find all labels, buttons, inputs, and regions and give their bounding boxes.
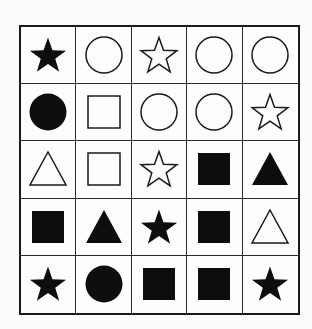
filled-star-icon bbox=[250, 264, 290, 304]
grid-cell-r2-c2 bbox=[76, 84, 131, 141]
grid-cell-r5-c2 bbox=[76, 256, 131, 313]
outline-triangle-icon bbox=[250, 207, 290, 247]
grid-cell-r1-c1 bbox=[21, 27, 76, 84]
outline-circle-icon bbox=[250, 35, 290, 75]
grid-cell-r2-c3 bbox=[132, 84, 187, 141]
grid-cell-r5-c5 bbox=[243, 256, 298, 313]
grid-cell-r5-c1 bbox=[21, 256, 76, 313]
grid-cell-r4-c3 bbox=[132, 199, 187, 256]
grid-cell-r3-c4 bbox=[187, 141, 242, 198]
filled-circle-icon bbox=[84, 264, 124, 304]
grid-cell-r4-c4 bbox=[187, 199, 242, 256]
grid-cell-r3-c1 bbox=[21, 141, 76, 198]
outline-circle-icon bbox=[194, 35, 234, 75]
filled-square-icon bbox=[194, 264, 234, 304]
grid-cell-r5-c3 bbox=[132, 256, 187, 313]
shape-grid bbox=[19, 25, 300, 315]
grid-cell-r3-c3 bbox=[132, 141, 187, 198]
outline-star-icon bbox=[139, 35, 179, 75]
grid-cell-r1-c2 bbox=[76, 27, 131, 84]
outline-square-icon bbox=[84, 92, 124, 132]
filled-square-icon bbox=[194, 149, 234, 189]
filled-square-icon bbox=[28, 207, 68, 247]
filled-triangle-icon bbox=[250, 149, 290, 189]
grid-cell-r2-c4 bbox=[187, 84, 242, 141]
grid-cell-r3-c2 bbox=[76, 141, 131, 198]
filled-square-icon bbox=[139, 264, 179, 304]
outline-star-icon bbox=[139, 149, 179, 189]
filled-circle-icon bbox=[28, 92, 68, 132]
filled-star-icon bbox=[139, 207, 179, 247]
grid-cell-r4-c2 bbox=[76, 199, 131, 256]
filled-star-icon bbox=[28, 35, 68, 75]
outline-square-icon bbox=[84, 149, 124, 189]
outline-triangle-icon bbox=[28, 149, 68, 189]
filled-square-icon bbox=[194, 207, 234, 247]
filled-triangle-icon bbox=[84, 207, 124, 247]
filled-star-icon bbox=[28, 264, 68, 304]
grid-cell-r1-c4 bbox=[187, 27, 242, 84]
outline-circle-icon bbox=[194, 92, 234, 132]
outline-circle-icon bbox=[84, 35, 124, 75]
grid-cell-r3-c5 bbox=[243, 141, 298, 198]
grid-cell-r2-c1 bbox=[21, 84, 76, 141]
grid-cell-r4-c1 bbox=[21, 199, 76, 256]
grid-cell-r2-c5 bbox=[243, 84, 298, 141]
grid-cell-r1-c5 bbox=[243, 27, 298, 84]
outline-circle-icon bbox=[139, 92, 179, 132]
grid-cell-r5-c4 bbox=[187, 256, 242, 313]
outline-star-icon bbox=[250, 92, 290, 132]
grid-cell-r4-c5 bbox=[243, 199, 298, 256]
grid-cell-r1-c3 bbox=[132, 27, 187, 84]
